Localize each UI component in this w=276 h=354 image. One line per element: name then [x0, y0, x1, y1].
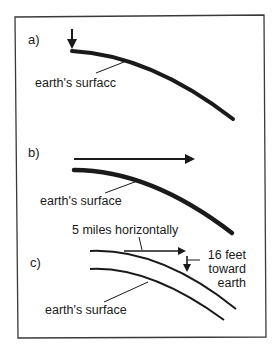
panel-c-surface-label: earth's surface: [45, 304, 127, 317]
panel-a-surface-label: earth's surfacc: [35, 77, 116, 90]
panel-c-fall-label-line2: toward: [200, 263, 246, 276]
panel-c-surface-label-leader: [104, 282, 148, 302]
panel-c-fall-label-line3: earth: [200, 277, 246, 290]
diagram-canvas: [0, 0, 276, 354]
panel-a-label-leader: [96, 62, 124, 73]
panel-c-horizontal-label: 5 miles horizontally: [72, 224, 178, 237]
panel-a-label: a): [28, 33, 40, 46]
panel-c-horizontal-label-leader: [139, 237, 142, 250]
panel-b-label: b): [28, 146, 40, 159]
panel-b-label-leader: [105, 180, 140, 193]
panel-b-surface-label: earth's surface: [40, 195, 122, 208]
panel-c-fall-label-line1: 16 feet: [200, 249, 246, 262]
panel-c-label: c): [30, 256, 41, 269]
